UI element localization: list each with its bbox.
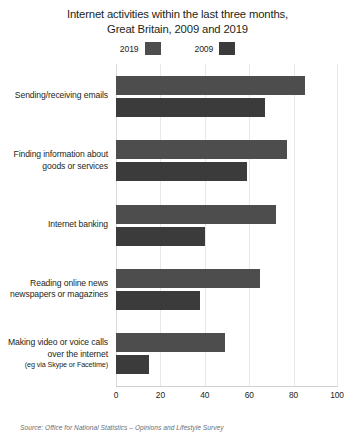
bar-groups xyxy=(116,64,338,386)
legend-swatch-2019 xyxy=(145,42,161,55)
bar-2009-emails xyxy=(116,98,265,117)
source-note: Source: Office for National Statistics –… xyxy=(20,424,224,431)
chart-title-line-1: Internet activities within the last thre… xyxy=(0,7,355,22)
legend-label-2009: 2009 xyxy=(195,44,214,54)
x-tick-label-80: 80 xyxy=(289,390,298,400)
bar-2019-internet-banking xyxy=(116,205,276,224)
category-label-subline: (eg via Skype or Facetime) xyxy=(25,360,108,370)
category-label-emails: Sending/receiving emails xyxy=(0,64,112,128)
x-tick-label-40: 40 xyxy=(200,390,209,400)
bar-group-finding-information xyxy=(116,128,338,192)
bar-group-reading-online-news xyxy=(116,257,338,321)
bar-2009-reading-online-news xyxy=(116,291,200,310)
legend-label-2019: 2019 xyxy=(120,44,139,54)
bar-2009-finding-information xyxy=(116,162,247,181)
x-axis: 0 20 40 60 80 100 xyxy=(116,386,338,406)
plot-area xyxy=(116,64,338,386)
x-axis-line xyxy=(116,386,338,387)
bar-2019-reading-online-news xyxy=(116,269,260,288)
x-tick-label-20: 20 xyxy=(156,390,165,400)
bar-2009-video-voice-calls xyxy=(116,355,149,374)
y-axis-category-labels: Sending/receiving emails Finding informa… xyxy=(0,64,112,386)
bar-group-internet-banking xyxy=(116,193,338,257)
x-tick-label-60: 60 xyxy=(245,390,254,400)
bar-2019-emails xyxy=(116,76,305,95)
x-tick-label-0: 0 xyxy=(114,390,119,400)
category-label-line: Sending/receiving emails xyxy=(15,90,108,102)
category-label-line: newspapers or magazines xyxy=(10,289,108,301)
category-label-line: Making video or voice calls xyxy=(8,337,108,349)
chart-figure: Internet activities within the last thre… xyxy=(0,0,355,444)
category-label-line: Finding information about xyxy=(14,149,108,161)
chart-legend: 2019 2009 xyxy=(0,42,355,55)
legend-item-2019: 2019 xyxy=(120,42,161,55)
category-label-line: goods or services xyxy=(42,161,108,173)
category-label-line: Reading online news xyxy=(30,278,108,290)
legend-item-2009: 2009 xyxy=(195,42,236,55)
category-label-finding-information: Finding information about goods or servi… xyxy=(0,128,112,192)
category-label-line: Internet banking xyxy=(48,219,108,231)
bar-2019-finding-information xyxy=(116,140,287,159)
category-label-line: over the internet xyxy=(48,349,108,361)
category-label-reading-online-news: Reading online news newspapers or magazi… xyxy=(0,257,112,321)
plot-wrapper: Sending/receiving emails Finding informa… xyxy=(0,64,355,386)
chart-title: Internet activities within the last thre… xyxy=(0,0,355,37)
bar-group-emails xyxy=(116,64,338,128)
chart-title-line-2: Great Britain, 2009 and 2019 xyxy=(0,22,355,37)
category-label-internet-banking: Internet banking xyxy=(0,193,112,257)
bar-2009-internet-banking xyxy=(116,227,205,246)
x-tick-label-100: 100 xyxy=(330,390,344,400)
bar-group-video-voice-calls xyxy=(116,322,338,386)
bar-2019-video-voice-calls xyxy=(116,333,225,352)
legend-swatch-2009 xyxy=(219,42,235,55)
category-label-video-voice-calls: Making video or voice calls over the int… xyxy=(0,322,112,386)
